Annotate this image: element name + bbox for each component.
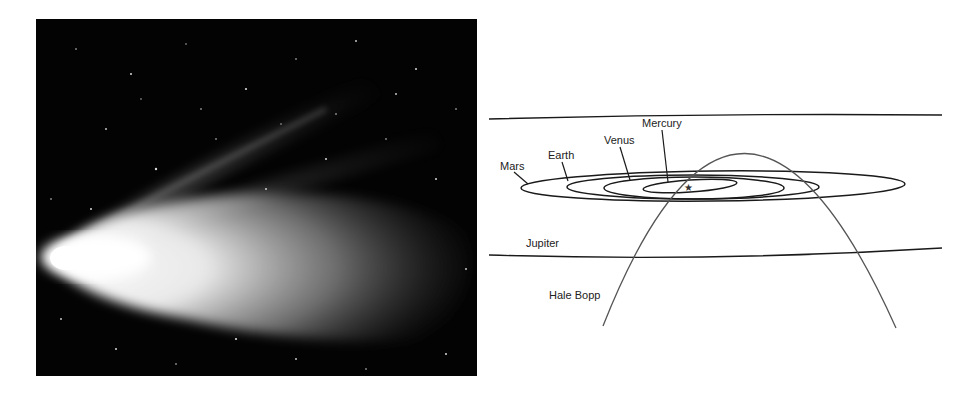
mars-orbit [521,169,905,203]
mercury-pointer [662,130,668,182]
solar-system-orbit-diagram: ★ Mercury Venus Earth Mars Jupiter Hale … [0,0,972,394]
mars-pointer [514,172,528,184]
sun-icon: ★ [684,182,693,193]
jupiter-orbit-far [489,115,942,120]
label-earth: Earth [548,149,574,161]
jupiter-orbit-near [489,248,942,257]
label-hale-bopp: Hale Bopp [549,289,600,301]
label-jupiter: Jupiter [526,237,559,249]
label-mercury: Mercury [642,117,682,129]
label-mars: Mars [500,160,525,172]
venus-pointer [620,147,630,180]
label-venus: Venus [604,134,635,146]
